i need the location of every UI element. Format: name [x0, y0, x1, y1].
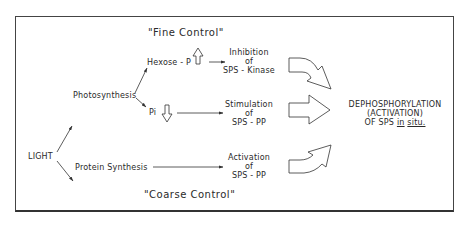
curved-arrow-up-icon	[289, 145, 331, 173]
effect-line-3: SPS - Kinase	[220, 66, 278, 75]
arrow-light-to-photosynthesis	[57, 126, 72, 152]
outcome-line-1: DEPHOSPHORYLATION	[345, 100, 445, 109]
photosynthesis-label: Photosynthesis	[73, 91, 136, 100]
effect-activation-sps-pp: Activation of SPS - PP	[220, 153, 278, 180]
outcome-line-2: (ACTIVATION)	[345, 109, 445, 118]
effect-stimulation-sps-pp: Stimulation of SPS - PP	[220, 100, 278, 127]
decrease-arrow-icon	[162, 105, 172, 122]
effect-line-2: of	[220, 109, 278, 118]
coarse-control-title: "Coarse Control"	[144, 190, 235, 199]
curved-arrow-down-icon	[289, 58, 331, 89]
arrow-photosynthesis-to-hexose	[135, 68, 147, 93]
effect-line-1: Activation	[220, 153, 278, 162]
straight-arrow-right-icon	[289, 95, 330, 124]
pi-label: Pi	[149, 108, 156, 117]
effect-line-1: Inhibition	[220, 48, 278, 57]
effect-line-3: SPS - PP	[220, 171, 278, 180]
effect-line-3: SPS - PP	[220, 118, 278, 127]
effect-inhibition-sps-kinase: Inhibition of SPS - Kinase	[220, 48, 278, 75]
effect-line-1: Stimulation	[220, 100, 278, 109]
fine-control-title: "Fine Control"	[148, 28, 224, 37]
effect-line-2: of	[220, 57, 278, 66]
light-label: LIGHT	[28, 152, 53, 161]
arrow-light-to-protein-synthesis	[57, 161, 73, 181]
outcome-line-3: OF SPS in situ.	[345, 118, 445, 127]
protein-synthesis-label: Protein Synthesis	[75, 163, 148, 172]
hexose-p-label: Hexose - P	[147, 58, 191, 67]
effect-line-2: of	[220, 162, 278, 171]
increase-arrow-icon	[193, 48, 203, 64]
arrow-photosynthesis-to-pi	[136, 98, 146, 107]
outcome-dephosphorylation: DEPHOSPHORYLATION (ACTIVATION) OF SPS in…	[345, 100, 445, 127]
